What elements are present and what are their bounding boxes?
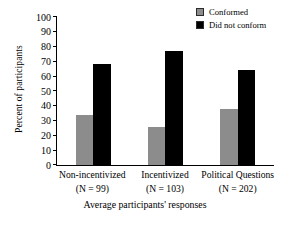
bar-conformed — [76, 115, 93, 165]
legend-swatch-black — [196, 21, 204, 29]
x-axis-group-name: Non-incentivized — [56, 168, 129, 182]
y-axis-title: Percent of participants — [14, 24, 24, 154]
x-axis-group-name: Incentivized — [129, 168, 202, 182]
y-axis-tick-label: 80 — [41, 39, 51, 54]
bar-conformed — [220, 109, 237, 165]
y-axis-tick-label: 20 — [41, 128, 51, 143]
bar-did-not-conform — [165, 51, 182, 165]
bar-group — [76, 17, 111, 165]
x-axis-title: Average participants' responses — [0, 199, 290, 210]
y-axis-tick-label: 0 — [46, 158, 51, 173]
legend-label: Did not conform — [209, 20, 266, 30]
chart-container: Percent of participants 0102030405060708… — [0, 0, 290, 225]
plot-area: 0102030405060708090100 — [56, 17, 274, 166]
legend-label: Conformed — [209, 7, 248, 17]
y-axis-tick-label: 90 — [41, 24, 51, 39]
x-axis-group-label: Incentivized(N = 103) — [129, 168, 202, 195]
x-axis-group-sample-size: (N = 99) — [56, 182, 129, 196]
legend-item: Did not conform — [196, 19, 266, 30]
y-axis-tick-label: 60 — [41, 69, 51, 84]
bar-conformed — [148, 127, 165, 165]
x-axis-group-name: Political Questions — [201, 168, 274, 182]
y-axis-tick-label: 10 — [41, 143, 51, 158]
bar-group — [148, 17, 183, 165]
legend-item: Conformed — [196, 6, 266, 17]
y-axis-tick-label: 30 — [41, 113, 51, 128]
x-axis-group-sample-size: (N = 103) — [129, 182, 202, 196]
x-axis-group-label: Political Questions(N = 202) — [201, 168, 274, 195]
bar-series-area — [57, 17, 274, 165]
chart-legend: ConformedDid not conform — [196, 6, 266, 32]
y-axis-tick-label: 50 — [41, 84, 51, 99]
bar-did-not-conform — [238, 70, 255, 165]
x-axis-group-sample-size: (N = 202) — [201, 182, 274, 196]
y-axis-tick-label: 70 — [41, 54, 51, 69]
x-axis-group-label: Non-incentivized(N = 99) — [56, 168, 129, 195]
legend-swatch-gray — [196, 8, 204, 16]
bar-did-not-conform — [93, 64, 110, 165]
y-axis-tick-label: 40 — [41, 98, 51, 113]
bar-group — [220, 17, 255, 165]
y-axis-tick-label: 100 — [36, 10, 51, 25]
